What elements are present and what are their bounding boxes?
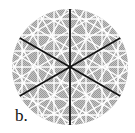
- kaleidoscope-figure: b.: [0, 0, 135, 133]
- figure-label: b.: [15, 107, 28, 124]
